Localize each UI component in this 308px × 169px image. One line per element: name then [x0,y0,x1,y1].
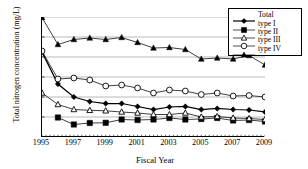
open-triangle-icon [231,28,257,36]
legend-item-label: Total [257,11,274,19]
x-axis-title: Fiscal Year [40,155,270,165]
legend-item-label: type IV [257,45,281,53]
y-axis-title: Total nitrogen concentration (mg/L) [12,0,21,135]
legend: Totaltype Itype IItype IIItype IV [228,8,302,56]
filled-triangle-icon [231,45,257,53]
chart-figure: Total nitrogen concentration (mg/L) Fisc… [0,0,308,169]
filled-diamond-icon [231,11,257,19]
filled-square-icon [231,20,257,28]
x-tick-label: 2009 [244,139,284,147]
open-circle-icon [231,36,257,44]
legend-item-type-iv: type IV [231,45,299,53]
